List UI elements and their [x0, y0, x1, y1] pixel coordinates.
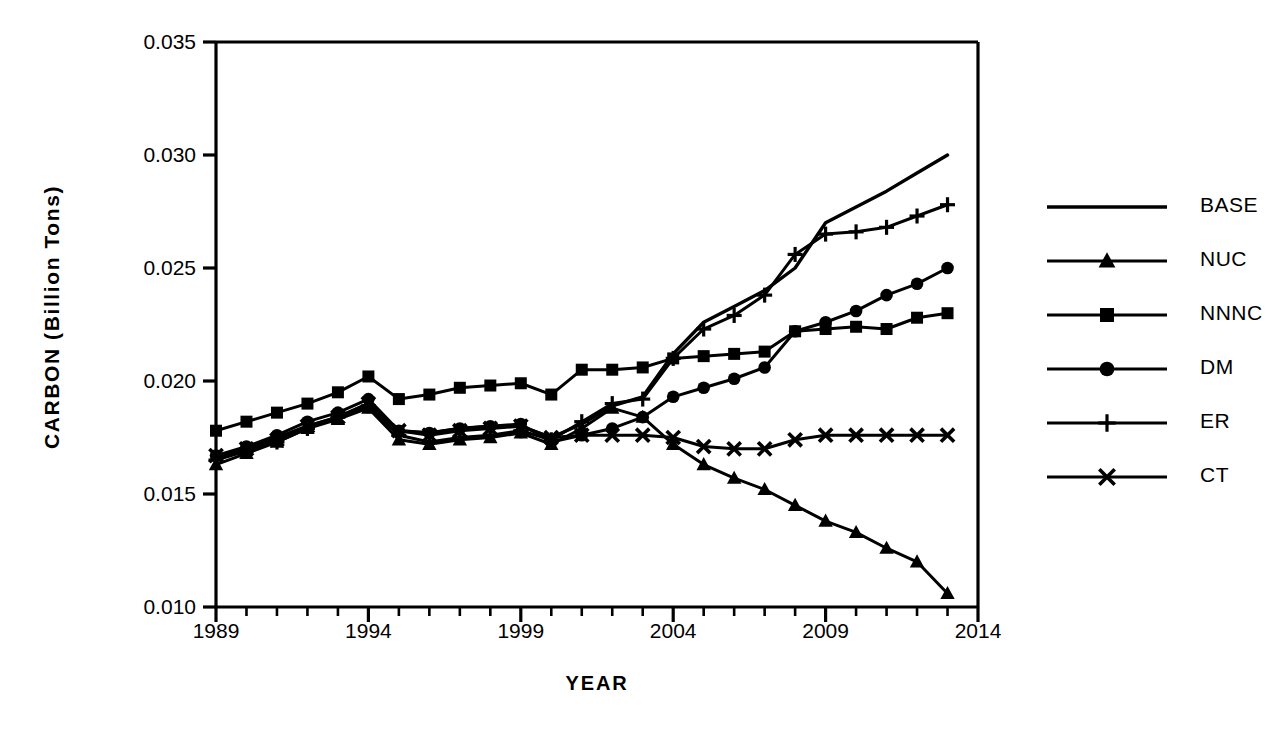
y-axis-tick-label: 0.010: [100, 595, 196, 619]
series-er-plus-marker: [879, 220, 894, 235]
series-nnnc-square-marker: [698, 350, 710, 362]
series-base: [216, 155, 948, 458]
chart-legend: BASENUCNNNCDMERCT: [1040, 180, 1279, 504]
data-series-layer: [209, 155, 956, 599]
series-er-plus-marker: [940, 197, 955, 212]
series-nnnc-square-marker: [850, 321, 862, 333]
series-dm-circle-marker: [728, 372, 741, 385]
series-dm-circle-marker: [667, 391, 680, 404]
series-nnnc-square-marker: [515, 377, 527, 389]
x-axis-title: YEAR: [216, 672, 978, 695]
legend-label-ct: CT: [1200, 463, 1229, 487]
legend-swatch-ct: [1045, 450, 1169, 504]
series-nnnc-square-marker: [454, 382, 466, 394]
legend-swatch-nnnc: [1045, 288, 1169, 342]
legend-swatch-nuc: [1045, 234, 1169, 288]
legend-plus-marker: [1098, 414, 1116, 432]
series-nnnc-square-marker: [210, 425, 222, 437]
legend-item-nnnc[interactable]: NNNC: [1040, 288, 1279, 342]
carbon-emissions-chart-figure: CARBON (Billion Tons) 0.0100.0150.0200.0…: [0, 0, 1279, 737]
y-axis-tick-label: 0.025: [100, 256, 196, 280]
series-nnnc-square-marker: [423, 389, 435, 401]
series-nnnc-square-marker: [759, 346, 771, 358]
legend-item-nuc[interactable]: NUC: [1040, 234, 1279, 288]
series-nnnc-square-marker: [942, 307, 954, 319]
series-dm-circle-marker: [911, 278, 924, 291]
series-nnnc-square-marker: [606, 364, 618, 376]
series-nnnc-square-marker: [484, 380, 496, 392]
x-axis-tick-label: 2009: [771, 619, 881, 643]
legend-item-dm[interactable]: DM: [1040, 342, 1279, 396]
legend-swatch-dm: [1045, 342, 1169, 396]
series-nnnc-square-marker: [545, 389, 557, 401]
series-nnnc-square-marker: [881, 323, 893, 335]
series-nnnc-square-marker: [576, 364, 588, 376]
series-dm-circle-marker: [880, 289, 893, 302]
legend-swatch-base: [1045, 180, 1169, 234]
series-dm: [210, 262, 954, 462]
legend-item-base[interactable]: BASE: [1040, 180, 1279, 234]
legend-label-base: BASE: [1200, 193, 1258, 217]
series-nnnc-square-marker: [301, 398, 313, 410]
x-axis-tick-label: 1994: [313, 619, 423, 643]
legend-label-dm: DM: [1200, 355, 1234, 379]
series-dm-circle-marker: [819, 316, 832, 329]
series-dm-circle-marker: [697, 381, 710, 394]
x-axis-tick-label: 2004: [618, 619, 728, 643]
series-nnnc-square-marker: [728, 348, 740, 360]
legend-label-er: ER: [1200, 409, 1230, 433]
series-nnnc-square-marker: [271, 407, 283, 419]
series-line-base: [216, 155, 948, 458]
x-axis-tick-label: 1999: [466, 619, 576, 643]
series-dm-circle-marker: [850, 305, 863, 318]
series-nnnc-square-marker: [393, 393, 405, 405]
legend-item-er[interactable]: ER: [1040, 396, 1279, 450]
series-nnnc-square-marker: [911, 312, 923, 324]
series-nnnc-square-marker: [240, 416, 252, 428]
legend-circle-marker: [1100, 362, 1115, 377]
axis-lines: [216, 42, 978, 607]
x-axis-tick-label: 2014: [923, 619, 1033, 643]
series-nnnc-square-marker: [362, 370, 374, 382]
series-dm-circle-marker: [636, 411, 649, 424]
legend-item-ct[interactable]: CT: [1040, 450, 1279, 504]
series-er-plus-marker: [849, 224, 864, 239]
series-nnnc-square-marker: [332, 386, 344, 398]
series-dm-circle-marker: [789, 325, 802, 338]
series-er-plus-marker: [910, 209, 925, 224]
y-axis-tick-label: 0.030: [100, 143, 196, 167]
series-nuc-triangle-marker: [696, 457, 710, 470]
legend-swatch-er: [1045, 396, 1169, 450]
series-nnnc-square-marker: [637, 361, 649, 373]
x-axis-tick-label: 1989: [161, 619, 271, 643]
x-axis-tick-labels: 198919941999200420092014: [0, 619, 1279, 653]
legend-label-nuc: NUC: [1200, 247, 1247, 271]
y-axis-title: CARBON (Billion Tons): [40, 107, 64, 527]
y-axis-tick-label: 0.015: [100, 482, 196, 506]
series-dm-circle-marker: [941, 262, 954, 275]
y-axis-tick-label: 0.035: [100, 30, 196, 54]
series-er: [209, 197, 956, 467]
legend-square-marker: [1100, 308, 1114, 322]
legend-label-nnnc: NNNC: [1200, 301, 1263, 325]
y-axis-tick-label: 0.020: [100, 369, 196, 393]
series-dm-circle-marker: [758, 361, 771, 374]
